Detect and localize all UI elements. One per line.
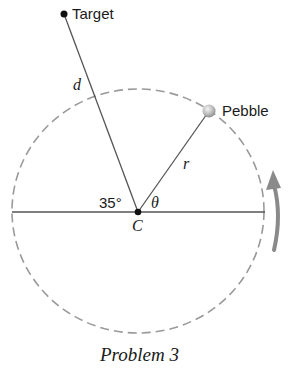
angle-theta-label: θ bbox=[151, 194, 159, 211]
problem-diagram: Target Pebble d r 35° θ C Problem 3 bbox=[0, 0, 294, 368]
line-c-to-pebble bbox=[138, 111, 209, 212]
target-label: Target bbox=[72, 5, 115, 22]
angle-35-label: 35° bbox=[99, 194, 122, 211]
radius-label-r: r bbox=[183, 155, 190, 172]
target-dot bbox=[61, 11, 68, 18]
center-label-c: C bbox=[132, 217, 143, 234]
figure-caption: Problem 3 bbox=[99, 344, 179, 365]
pebble-label: Pebble bbox=[222, 102, 269, 119]
distance-label-d: d bbox=[73, 76, 82, 93]
pebble-icon bbox=[203, 105, 216, 118]
line-c-to-target bbox=[64, 14, 138, 212]
rotation-arrow-icon bbox=[266, 170, 281, 250]
center-dot bbox=[135, 209, 142, 216]
